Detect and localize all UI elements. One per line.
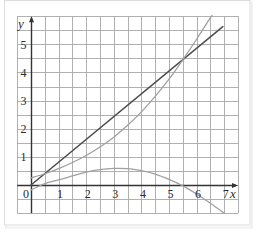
- x-axis-title: x: [229, 186, 236, 201]
- x-tick-label: 7: [223, 187, 229, 201]
- y-tick-label: 1: [21, 150, 27, 164]
- x-tick-label: 2: [85, 187, 91, 201]
- y-tick-label: 5: [21, 38, 27, 52]
- y-tick-label: 3: [21, 94, 27, 108]
- x-tick-label: 6: [195, 187, 201, 201]
- x-tick-label: 5: [168, 187, 174, 201]
- x-tick-label: 4: [140, 187, 146, 201]
- x-tick-label: 3: [112, 187, 118, 201]
- plot-area: [17, 16, 238, 213]
- chart: 1234567123450 x y: [0, 0, 257, 238]
- y-tick-label: 2: [21, 122, 27, 136]
- grid: [17, 16, 238, 213]
- y-tick-label: 4: [21, 66, 27, 80]
- origin-label: 0: [23, 187, 29, 201]
- x-tick-label: 1: [57, 187, 63, 201]
- y-axis-title: y: [16, 16, 24, 31]
